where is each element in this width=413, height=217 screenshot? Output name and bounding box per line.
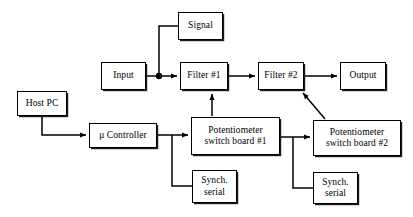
node-pot-board-2-label: Potentiometer switch board #2 [324, 127, 390, 150]
block-diagram: Signal Input Filter #1 Filter #2 Output … [0, 0, 413, 217]
node-synch-serial-1-label: Synch. serial [199, 175, 230, 198]
node-micro-controller[interactable]: μ Controller [89, 123, 157, 148]
node-synch-serial-1[interactable]: Synch. serial [192, 170, 237, 203]
node-filter-1-label: Filter #1 [185, 70, 222, 82]
node-synch-serial-2-label: Synch. serial [320, 177, 351, 200]
node-host-pc[interactable]: Host PC [17, 91, 67, 116]
node-signal-label: Signal [186, 20, 215, 32]
node-pot-board-1[interactable]: Potentiometer switch board #1 [191, 117, 280, 155]
node-filter-2-label: Filter #2 [262, 70, 299, 82]
node-output[interactable]: Output [340, 62, 386, 90]
wire-controller-to-synch1 [172, 135, 192, 186]
wire-junction-to-signal [159, 26, 178, 76]
node-pot-board-1-label: Potentiometer switch board #1 [202, 125, 268, 148]
node-output-label: Output [348, 70, 379, 82]
signal-junction-dot [156, 73, 162, 79]
node-filter-2[interactable]: Filter #2 [258, 62, 304, 90]
node-host-pc-label: Host PC [24, 98, 61, 110]
wire-board1-to-synch2 [293, 137, 313, 188]
wire-board2-to-filter2 [303, 93, 325, 119]
node-input-label: Input [111, 70, 136, 82]
node-synch-serial-2[interactable]: Synch. serial [313, 172, 358, 204]
node-signal[interactable]: Signal [178, 12, 223, 40]
node-input[interactable]: Input [101, 62, 146, 90]
node-pot-board-2[interactable]: Potentiometer switch board #2 [313, 120, 401, 156]
wire-hostpc-to-controller [42, 117, 86, 135]
node-micro-controller-label: μ Controller [97, 130, 149, 142]
node-filter-1[interactable]: Filter #1 [180, 62, 228, 90]
